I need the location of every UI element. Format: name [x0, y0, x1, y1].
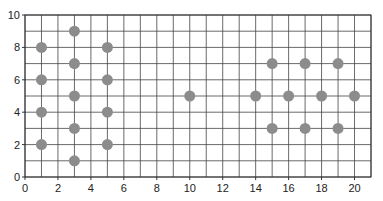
x-tick-label: 8 — [154, 182, 160, 194]
x-tick-label: 4 — [88, 182, 94, 194]
y-tick-label: 4 — [14, 106, 20, 118]
data-point — [36, 107, 47, 118]
scatter-chart: 02468101214161820 0246810 — [0, 0, 383, 201]
data-point — [69, 155, 80, 166]
x-tick-label: 12 — [217, 182, 229, 194]
data-point — [250, 91, 261, 102]
data-point — [349, 91, 360, 102]
data-point — [69, 91, 80, 102]
x-tick-label: 2 — [55, 182, 61, 194]
data-point — [267, 58, 278, 69]
data-point — [300, 123, 311, 134]
x-tick-label: 14 — [250, 182, 262, 194]
data-point — [102, 139, 113, 150]
data-point — [69, 26, 80, 37]
data-point — [267, 123, 278, 134]
data-point — [36, 139, 47, 150]
data-point — [333, 123, 344, 134]
data-point — [184, 91, 195, 102]
x-axis-ticks: 02468101214161820 — [22, 177, 361, 194]
data-point — [300, 58, 311, 69]
y-tick-label: 10 — [8, 9, 20, 21]
y-tick-label: 2 — [14, 139, 20, 151]
x-tick-label: 10 — [184, 182, 196, 194]
data-point — [333, 58, 344, 69]
data-point — [36, 74, 47, 85]
y-tick-label: 0 — [14, 171, 20, 183]
data-point — [36, 42, 47, 53]
x-tick-label: 0 — [22, 182, 28, 194]
y-tick-label: 8 — [14, 41, 20, 53]
y-tick-label: 6 — [14, 74, 20, 86]
data-point — [316, 91, 327, 102]
data-point — [102, 107, 113, 118]
x-tick-label: 16 — [282, 182, 294, 194]
x-tick-label: 18 — [315, 182, 327, 194]
data-point — [69, 58, 80, 69]
x-tick-label: 6 — [121, 182, 127, 194]
data-point — [102, 42, 113, 53]
data-point — [283, 91, 294, 102]
x-tick-label: 20 — [348, 182, 360, 194]
data-point — [69, 123, 80, 134]
data-point — [102, 74, 113, 85]
y-axis-ticks: 0246810 — [8, 9, 25, 183]
